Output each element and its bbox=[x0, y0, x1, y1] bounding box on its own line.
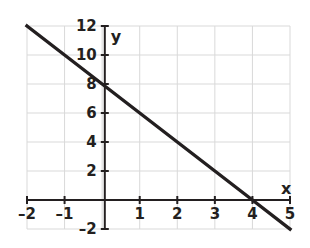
y-tick-label: 6 bbox=[86, 106, 96, 121]
y-tick-label: 4 bbox=[86, 135, 96, 150]
y-tick-label: 2 bbox=[86, 164, 96, 179]
x-tick-label: 2 bbox=[172, 207, 182, 222]
x-axis-label: x bbox=[281, 181, 291, 197]
line-graph: –2–11234512108642–2 x y bbox=[0, 0, 310, 248]
data-line bbox=[27, 26, 290, 229]
x-tick-label: –2 bbox=[18, 207, 36, 222]
x-tick-label: 4 bbox=[247, 207, 257, 222]
x-tick-label: 5 bbox=[285, 207, 295, 222]
x-tick-label: –1 bbox=[56, 207, 74, 222]
x-tick-label: 3 bbox=[210, 207, 220, 222]
y-tick-label: –2 bbox=[79, 222, 97, 237]
y-tick-label: 12 bbox=[76, 19, 97, 34]
plot-area bbox=[0, 0, 310, 248]
x-tick-label: 1 bbox=[134, 207, 144, 222]
y-tick-label: 10 bbox=[76, 48, 97, 63]
y-tick-label: 8 bbox=[86, 77, 96, 92]
y-axis-label: y bbox=[111, 29, 121, 45]
